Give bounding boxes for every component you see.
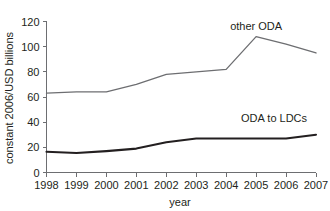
y-tick-label-group: 020406080100120 [21, 16, 39, 179]
chart-container: 020406080100120 199819992000200120022003… [0, 0, 330, 211]
x-axis-title: year [169, 196, 191, 208]
x-tick-label: 2006 [274, 179, 298, 191]
y-axis-title: constant 2006/USD billions [3, 31, 15, 164]
series-line [47, 135, 317, 153]
x-axis: 1998199920002001200220032004200520062007 [34, 173, 328, 191]
y-tick-label: 60 [27, 91, 39, 103]
x-tick-label: 2001 [124, 179, 148, 191]
series-annotation-group: other ODAODA to LDCs [230, 20, 307, 124]
series-annotation-label: ODA to LDCs [241, 112, 308, 124]
x-tick-label: 1999 [64, 179, 88, 191]
series-line [47, 37, 317, 94]
x-tick-label: 2003 [184, 179, 208, 191]
x-tick-group [47, 173, 317, 177]
x-tick-label: 1998 [34, 179, 58, 191]
y-tick-label: 80 [27, 66, 39, 78]
x-tick-label: 2007 [304, 179, 328, 191]
x-tick-label: 2002 [154, 179, 178, 191]
y-tick-label: 120 [21, 16, 39, 28]
y-tick-group [43, 22, 47, 173]
line-chart: 020406080100120 199819992000200120022003… [0, 0, 330, 211]
x-tick-label: 2000 [94, 179, 118, 191]
x-tick-label: 2005 [244, 179, 268, 191]
series-group [47, 37, 317, 153]
y-tick-label: 20 [27, 141, 39, 153]
y-axis: 020406080100120 [21, 16, 46, 179]
x-tick-label: 2004 [214, 179, 238, 191]
series-annotation-label: other ODA [230, 20, 283, 32]
y-tick-label: 40 [27, 116, 39, 128]
x-tick-label-group: 1998199920002001200220032004200520062007 [34, 179, 328, 191]
y-tick-label: 0 [33, 167, 39, 179]
y-tick-label: 100 [21, 41, 39, 53]
